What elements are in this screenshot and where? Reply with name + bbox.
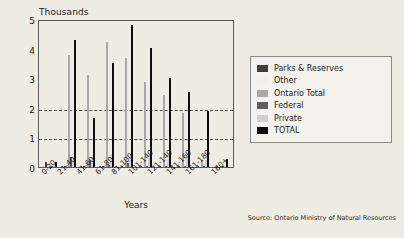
legend-swatch [257, 127, 268, 134]
legend-item[interactable]: Ontario Total [257, 87, 385, 100]
bar [87, 75, 89, 167]
bar [125, 58, 127, 167]
bar-groups [39, 21, 233, 167]
chart-figure: Thousands 012345 0-2021-4041-6061-8081-1… [0, 0, 404, 238]
x-axis-tick: 161-180 [194, 170, 213, 204]
bar [74, 40, 76, 167]
y-axis-tick: 2 [29, 105, 35, 115]
x-axis-tick: 21-40 [59, 170, 78, 204]
legend-label: TOTAL [274, 126, 299, 135]
bar-group [60, 21, 79, 167]
legend-item[interactable]: Other [257, 75, 385, 88]
x-axis-tick-container: 0-2021-4041-6061-8081-100101-140121-1401… [38, 170, 234, 204]
legend-rows: Parks & ReservesOtherOntario TotalFedera… [257, 62, 385, 137]
legend-label: Parks & Reserves [274, 64, 343, 73]
plot-area: 012345 [38, 20, 234, 168]
legend-swatch [257, 102, 268, 109]
y-axis-tick: 5 [29, 16, 35, 26]
legend-label: Private [274, 114, 302, 123]
y-axis-tick: 0 [29, 164, 35, 174]
legend-item[interactable]: Private [257, 112, 385, 125]
bar-group [155, 21, 174, 167]
legend-label: Other [274, 76, 297, 85]
bar [112, 63, 114, 167]
y-axis-tick: 1 [29, 134, 35, 144]
y-axis-tick: 4 [29, 46, 35, 56]
x-axis-tick: 0-20 [40, 170, 59, 204]
bar-group [193, 21, 212, 167]
bar-group [174, 21, 193, 167]
chart-legend: Parks & ReservesOtherOntario TotalFedera… [250, 56, 392, 143]
x-axis-tick: 180+ [213, 170, 232, 204]
x-axis-title: Years [38, 200, 234, 210]
bar-group [41, 21, 60, 167]
source-caption: Source: Ontario Ministry of Natural Reso… [248, 214, 396, 222]
bar-group [98, 21, 117, 167]
y-axis-tick: 3 [29, 75, 35, 85]
bar [106, 42, 108, 167]
bar-group [117, 21, 136, 167]
legend-item[interactable]: Federal [257, 100, 385, 113]
bar-group [136, 21, 155, 167]
legend-item[interactable]: Parks & Reserves [257, 62, 385, 75]
bar-group [79, 21, 98, 167]
legend-label: Federal [274, 101, 304, 110]
x-axis-tick: 41-60 [78, 170, 97, 204]
legend-swatch [257, 77, 268, 84]
y-axis-units-label: Thousands [39, 7, 89, 17]
bar [131, 25, 133, 167]
bar-group [212, 21, 231, 167]
legend-label: Ontario Total [274, 89, 325, 98]
legend-swatch [257, 65, 268, 72]
legend-swatch [257, 115, 268, 122]
legend-item[interactable]: TOTAL [257, 125, 385, 138]
legend-swatch [257, 90, 268, 97]
bar [68, 55, 70, 167]
